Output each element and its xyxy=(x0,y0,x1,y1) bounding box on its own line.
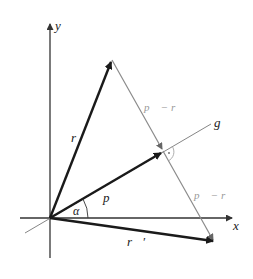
y-axis-label: y xyxy=(53,18,61,33)
right-angle-dot xyxy=(168,152,170,154)
angle-alpha-arc xyxy=(83,199,88,218)
vector-r-label: r⃗ xyxy=(71,130,86,145)
angle-alpha-label: α xyxy=(73,204,80,218)
difference-label-upper: p⃗ − r⃗ xyxy=(143,101,184,113)
difference-label-lower: p⃗ − r⃗ xyxy=(193,189,234,201)
reflection-diagram: y x g r⃗ p⃗ r⃗′ α p⃗ − r⃗ p⃗ − r⃗ xyxy=(0,0,253,279)
line-g-label: g xyxy=(214,115,221,130)
vector-p xyxy=(50,153,161,218)
vector-p-label: p⃗ xyxy=(102,190,120,205)
vector-r-prime-label: r⃗′ xyxy=(127,234,145,249)
x-axis-label: x xyxy=(232,218,239,233)
